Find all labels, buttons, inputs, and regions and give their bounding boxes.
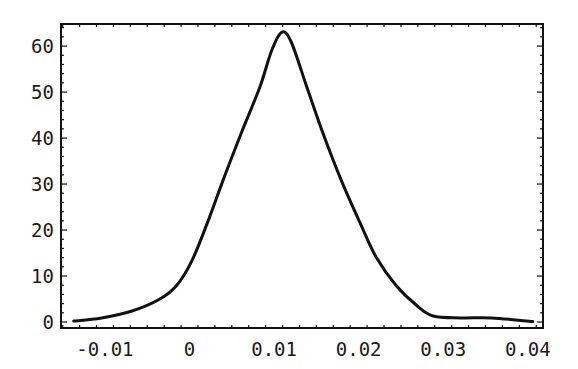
- density-curve: [74, 32, 533, 322]
- x-tick-label: 0: [184, 338, 195, 360]
- y-tick-label: 20: [31, 219, 54, 241]
- x-tick-label: 0.01: [251, 338, 297, 360]
- y-tick-label: 0: [43, 311, 54, 333]
- y-axis-tick-labels: 0102030405060: [31, 35, 54, 333]
- x-axis-tick-labels: -0.0100.010.020.030.04: [76, 338, 550, 360]
- x-tick-label: 0.02: [336, 338, 382, 360]
- y-tick-label: 60: [31, 35, 54, 57]
- y-tick-label: 30: [31, 173, 54, 195]
- x-tick-label: -0.01: [76, 338, 133, 360]
- y-tick-label: 50: [31, 81, 54, 103]
- y-tick-label: 40: [31, 127, 54, 149]
- x-tick-label: 0.04: [505, 338, 551, 360]
- x-tick-label: 0.03: [420, 338, 466, 360]
- density-line-chart: -0.0100.010.020.030.04 0102030405060: [0, 0, 578, 369]
- y-tick-label: 10: [31, 265, 54, 287]
